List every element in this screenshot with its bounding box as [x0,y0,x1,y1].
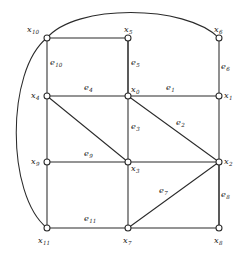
vertex-label-x8: x8 [214,236,222,245]
vertex-label-x9: x9 [31,157,39,166]
edge-arc-x10-x6 [47,13,219,39]
edge-label-e11: e11 [84,214,96,223]
vertex-x10 [44,35,50,41]
vertex-x2 [216,159,222,165]
vertex-label-x11: x11 [38,236,50,245]
vertex-label-x3: x3 [131,164,139,173]
vertex-label-x5: x5 [124,25,132,34]
edge-label-e9: e9 [84,149,92,158]
vertex-x1 [216,93,222,99]
graph-figure: x0x1x2x3x4x5x6x7x8x9x10x11e1e2e3e4e5e6e7… [0,0,242,258]
edge-e7 [128,162,219,228]
edge-arc-x10-x11 [16,38,47,228]
vertex-x8 [216,225,222,231]
vertex-label-x6: x6 [214,25,222,34]
edge-label-e8: e8 [221,190,229,199]
edge-e2 [128,96,219,162]
edge-label-e6: e6 [221,62,229,71]
edge-label-e2: e2 [176,118,184,127]
vertex-label-x0: x0 [131,85,139,94]
vertex-label-x7: x7 [123,236,131,245]
graph-canvas [0,0,242,258]
vertex-label-x2: x2 [224,157,232,166]
vertex-x7 [125,225,131,231]
vertex-label-x4: x4 [31,91,39,100]
edge-label-e4: e4 [84,83,92,92]
edge-label-e3: e3 [131,122,139,131]
vertex-x6 [216,35,222,41]
vertex-x5 [125,35,131,41]
edge-label-e5: e5 [131,58,139,67]
edge-label-e1: e1 [166,83,174,92]
edge-label-e10: e10 [50,58,62,67]
vertex-x4 [44,93,50,99]
edge-label-e7: e7 [159,186,167,195]
vertex-label-x1: x1 [224,91,232,100]
edges-group [16,13,219,229]
vertex-label-x10: x10 [27,25,39,34]
vertex-x9 [44,159,50,165]
vertex-x11 [44,225,50,231]
